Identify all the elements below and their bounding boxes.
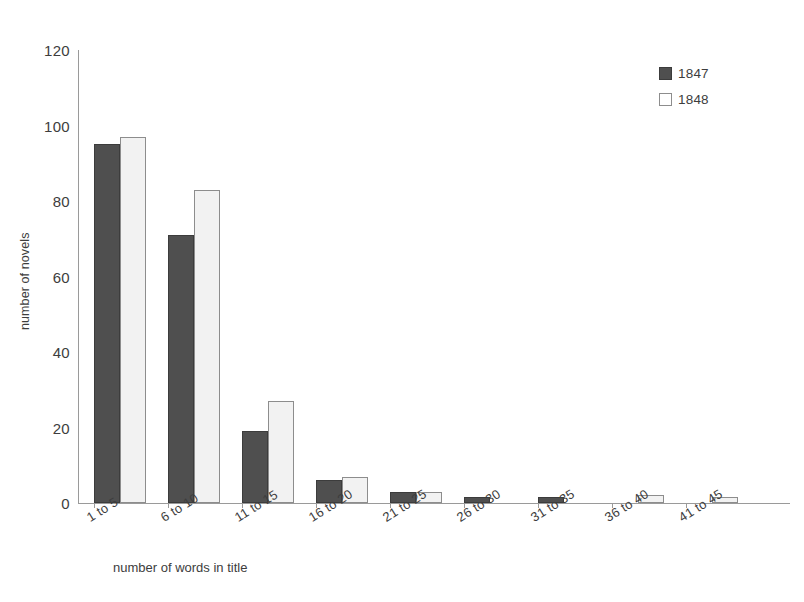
bar-group bbox=[94, 50, 152, 503]
plot-area bbox=[78, 50, 790, 503]
legend-label: 1848 bbox=[678, 92, 709, 107]
legend-item-1847: 1847 bbox=[659, 60, 709, 86]
bar-group bbox=[168, 50, 226, 503]
y-tick-label: 0 bbox=[61, 495, 70, 512]
bar-1848 bbox=[120, 137, 146, 503]
bar-group bbox=[686, 50, 744, 503]
y-tick-label: 120 bbox=[44, 42, 70, 59]
legend-swatch-icon bbox=[659, 93, 672, 106]
legend-item-1848: 1848 bbox=[659, 86, 709, 112]
y-tick-label: 80 bbox=[53, 193, 70, 210]
x-axis-title: number of words in title bbox=[113, 560, 247, 575]
y-axis-title: number of novels bbox=[18, 233, 32, 331]
y-tick-label: 40 bbox=[53, 344, 70, 361]
bar-group bbox=[464, 50, 522, 503]
bar-1847 bbox=[94, 144, 120, 503]
bar-1847 bbox=[168, 235, 194, 503]
bar-group bbox=[538, 50, 596, 503]
legend-swatch-icon bbox=[659, 67, 672, 80]
legend: 1847 1848 bbox=[659, 60, 709, 112]
bar-group bbox=[390, 50, 448, 503]
legend-label: 1847 bbox=[678, 66, 709, 81]
y-tick-label: 20 bbox=[53, 419, 70, 436]
y-tick-label: 100 bbox=[44, 117, 70, 134]
y-axis-ticks: 120 100 80 60 40 20 0 bbox=[0, 50, 70, 503]
bar-group bbox=[242, 50, 300, 503]
bar-1848 bbox=[194, 190, 220, 503]
bar-group bbox=[316, 50, 374, 503]
y-tick-label: 60 bbox=[53, 268, 70, 285]
bar-group bbox=[612, 50, 670, 503]
bar-chart: 120 100 80 60 40 20 0 number of novels bbox=[0, 0, 804, 602]
